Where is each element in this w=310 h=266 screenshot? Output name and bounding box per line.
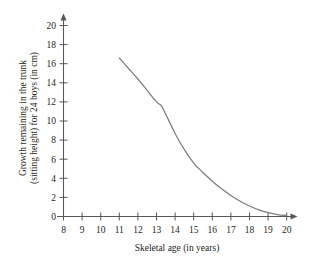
growth-curve <box>119 58 286 216</box>
x-tick-label-12: 12 <box>133 225 143 235</box>
y-tick-label-0: 0 <box>51 212 56 222</box>
x-tick-label-19: 19 <box>263 225 273 235</box>
x-axis-arrow-icon <box>291 213 298 219</box>
y-tick-label-12: 12 <box>47 97 57 107</box>
y-tick-label-18: 18 <box>47 40 57 50</box>
x-tick-label-20: 20 <box>282 225 292 235</box>
growth-remaining-line-chart: 0 2 4 6 8 10 12 14 16 18 20 <box>0 0 310 266</box>
y-axis-title: Growth remaining in the trunk (sitting h… <box>18 52 40 184</box>
y-axis-arrow-icon <box>60 14 66 21</box>
y-tick-label-20: 20 <box>47 21 57 31</box>
x-tick-label-9: 9 <box>80 225 85 235</box>
y-tick-label-10: 10 <box>47 116 57 126</box>
x-axis-tick-labels: 8 9 10 11 12 13 14 15 16 17 18 19 20 <box>61 225 292 235</box>
y-tick-label-16: 16 <box>47 59 57 69</box>
x-tick-label-14: 14 <box>170 225 180 235</box>
x-axis <box>57 213 298 219</box>
x-axis-title: Skeletal age (in years) <box>135 243 220 254</box>
x-tick-label-15: 15 <box>189 225 199 235</box>
y-axis <box>60 14 66 217</box>
chart-figure: 0 2 4 6 8 10 12 14 16 18 20 <box>0 0 310 266</box>
x-tick-label-8: 8 <box>61 225 66 235</box>
x-tick-label-13: 13 <box>152 225 162 235</box>
y-tick-label-8: 8 <box>51 135 56 145</box>
x-tick-label-18: 18 <box>245 225 255 235</box>
y-tick-label-6: 6 <box>51 155 56 165</box>
x-tick-label-17: 17 <box>226 225 236 235</box>
y-axis-title-line1: Growth remaining in the trunk <box>18 60 28 176</box>
y-axis-title-line2: (sitting height) for 24 boys (in cm) <box>29 52 40 184</box>
y-axis-tick-labels: 0 2 4 6 8 10 12 14 16 18 20 <box>47 21 57 222</box>
x-tick-label-11: 11 <box>115 225 124 235</box>
x-tick-label-10: 10 <box>96 225 106 235</box>
x-tick-label-16: 16 <box>208 225 218 235</box>
y-tick-label-14: 14 <box>47 78 57 88</box>
y-tick-label-2: 2 <box>51 193 56 203</box>
y-tick-label-4: 4 <box>51 174 56 184</box>
